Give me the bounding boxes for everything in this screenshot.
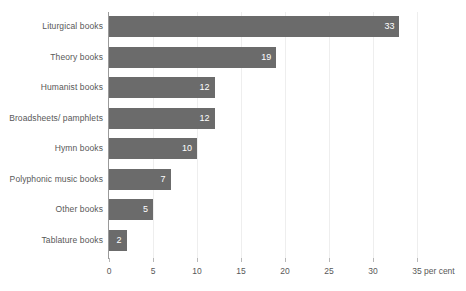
bar-value-label: 12	[200, 108, 210, 129]
bar[interactable]: 19	[109, 47, 276, 68]
bar-value-label: 33	[384, 16, 394, 37]
bar-row: Polyphonic music books7	[0, 169, 466, 190]
x-tick-mark	[153, 258, 154, 262]
bar-row: Humanist books12	[0, 77, 466, 98]
category-label: Other books	[0, 199, 103, 220]
bar-rows: Liturgical books33Theory books19Humanist…	[0, 0, 466, 258]
x-tick-label: 30	[361, 266, 385, 276]
bar[interactable]: 2	[109, 230, 127, 251]
bar-value-label: 7	[161, 169, 166, 190]
bar-value-label: 19	[261, 47, 271, 68]
bar-value-label: 5	[143, 199, 148, 220]
bar[interactable]: 7	[109, 169, 171, 190]
bar-row: Theory books19	[0, 47, 466, 68]
category-label: Humanist books	[0, 77, 103, 98]
category-label: Polyphonic music books	[0, 169, 103, 190]
bar-row: Liturgical books33	[0, 16, 466, 37]
x-tick-mark	[241, 258, 242, 262]
x-tick-label: 20	[273, 266, 297, 276]
x-tick-mark	[373, 258, 374, 262]
x-tick-label: 15	[229, 266, 253, 276]
category-label: Liturgical books	[0, 16, 103, 37]
bar-value-label: 2	[117, 230, 122, 251]
bar[interactable]: 12	[109, 77, 215, 98]
bar-chart: Liturgical books33Theory books19Humanist…	[0, 0, 466, 291]
bar-row: Hymn books10	[0, 138, 466, 159]
x-tick-label: 25	[317, 266, 341, 276]
bar-value-label: 12	[200, 77, 210, 98]
bar-row: Other books5	[0, 199, 466, 220]
x-axis: per cent 05101520253035	[0, 258, 466, 291]
x-tick-label: 35	[405, 266, 429, 276]
category-label: Hymn books	[0, 138, 103, 159]
category-label: Tablature books	[0, 230, 103, 251]
x-tick-mark	[109, 258, 110, 262]
bar[interactable]: 10	[109, 138, 197, 159]
x-tick-mark	[417, 258, 418, 262]
x-tick-label: 5	[141, 266, 165, 276]
x-tick-mark	[285, 258, 286, 262]
bar[interactable]: 5	[109, 199, 153, 220]
x-tick-label: 10	[185, 266, 209, 276]
x-tick-mark	[329, 258, 330, 262]
bar[interactable]: 12	[109, 108, 215, 129]
bar-value-label: 10	[182, 138, 192, 159]
x-tick-mark	[197, 258, 198, 262]
bar-row: Tablature books2	[0, 230, 466, 251]
category-label: Theory books	[0, 47, 103, 68]
x-tick-label: 0	[97, 266, 121, 276]
bar-row: Broadsheets/ pamphlets12	[0, 108, 466, 129]
bar[interactable]: 33	[109, 16, 399, 37]
category-label: Broadsheets/ pamphlets	[0, 108, 103, 129]
